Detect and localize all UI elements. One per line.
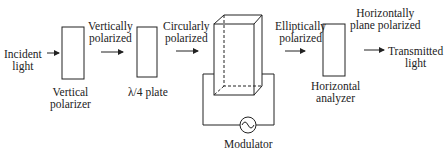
vertical-polarizer-label: Vertical polarizer <box>50 86 91 110</box>
electro-optic-crystal <box>214 15 262 95</box>
modulator-label: Modulator <box>224 138 273 150</box>
elliptically-polarized-label: Elliptically polarized <box>275 20 326 44</box>
vertically-polarized-label: Vertically polarized <box>88 20 133 44</box>
transmitted-light-label: Transmitted light <box>388 45 443 69</box>
incident-light-label: Incident light <box>4 48 42 72</box>
horizontally-polarized-label: Horizontally plane polarized <box>350 7 421 31</box>
quarter-wave-plate <box>137 27 157 77</box>
horizontal-analyzer-label: Horizontal analyzer <box>311 80 360 104</box>
horizontal-analyzer-plate <box>323 24 345 76</box>
vertical-polarizer-plate <box>62 27 84 79</box>
circularly-polarized-label: Circularly polarized <box>163 20 210 44</box>
quarter-wave-plate-label: λ/4 plate <box>128 86 168 98</box>
